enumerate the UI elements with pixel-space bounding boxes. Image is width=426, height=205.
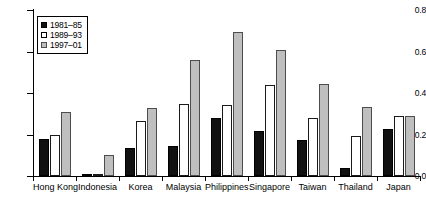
x-axis-tick (33, 177, 34, 181)
x-axis-tick (205, 177, 206, 181)
bar (351, 136, 361, 176)
x-axis-tick (334, 177, 335, 181)
bar (125, 148, 135, 176)
bar (254, 131, 264, 176)
bar (319, 84, 329, 176)
bar (190, 60, 200, 176)
bar-group (334, 10, 377, 176)
bar-chart: 0.00.20.40.60.8 Hong KongIndonesiaKoreaM… (0, 0, 426, 205)
bar (93, 174, 103, 176)
chart-legend: 1981–85 1989–93 1997–01 (37, 16, 88, 54)
bar (179, 104, 189, 176)
bar (82, 174, 92, 176)
x-axis-category-label: Taiwan (291, 182, 334, 193)
bar (233, 32, 243, 176)
x-axis-category-label: Japan (377, 182, 420, 193)
legend-swatch-icon (41, 32, 47, 38)
bar (136, 121, 146, 176)
x-axis-tick (291, 177, 292, 181)
bar (308, 118, 318, 176)
bar (222, 105, 232, 176)
legend-label: 1997–01 (50, 41, 82, 50)
bar (265, 85, 275, 176)
x-axis-category-label: Philippines (205, 182, 248, 193)
bar (276, 50, 286, 176)
bar (50, 135, 60, 177)
x-axis-tick (76, 177, 77, 181)
legend-item: 1981–85 (41, 20, 82, 30)
bar (104, 155, 114, 176)
x-axis-tick (162, 177, 163, 181)
legend-label: 1989–93 (50, 31, 82, 40)
x-axis-line (33, 176, 421, 177)
bar-group (205, 10, 248, 176)
bar (362, 107, 372, 177)
bar (383, 129, 393, 176)
bar (61, 112, 71, 176)
bar-group (162, 10, 205, 176)
x-axis-tick (377, 177, 378, 181)
bar (211, 118, 221, 176)
legend-label: 1981–85 (50, 21, 82, 30)
bar (340, 168, 350, 176)
x-axis-category-label: Hong Kong (33, 182, 76, 193)
x-axis-category-label: Korea (119, 182, 162, 193)
bar-group (248, 10, 291, 176)
bar-group (377, 10, 420, 176)
bar (39, 139, 49, 176)
x-axis-category-label: Singapore (248, 182, 291, 193)
x-axis-category-label: Thailand (334, 182, 377, 193)
legend-item: 1989–93 (41, 30, 82, 40)
x-axis-category-label: Malaysia (162, 182, 205, 193)
x-axis-tick (248, 177, 249, 181)
legend-swatch-icon (41, 22, 47, 28)
x-axis-category-label: Indonesia (76, 182, 119, 193)
bar (147, 108, 157, 176)
bar (297, 140, 307, 176)
x-axis-tick (119, 177, 120, 181)
plot-area (33, 10, 420, 176)
bar-group (119, 10, 162, 176)
bar (405, 116, 415, 176)
legend-item: 1997–01 (41, 40, 82, 50)
bar (168, 146, 178, 176)
x-axis-tick (420, 177, 421, 181)
bar (394, 116, 404, 176)
bar-group (291, 10, 334, 176)
legend-swatch-icon (41, 42, 47, 48)
